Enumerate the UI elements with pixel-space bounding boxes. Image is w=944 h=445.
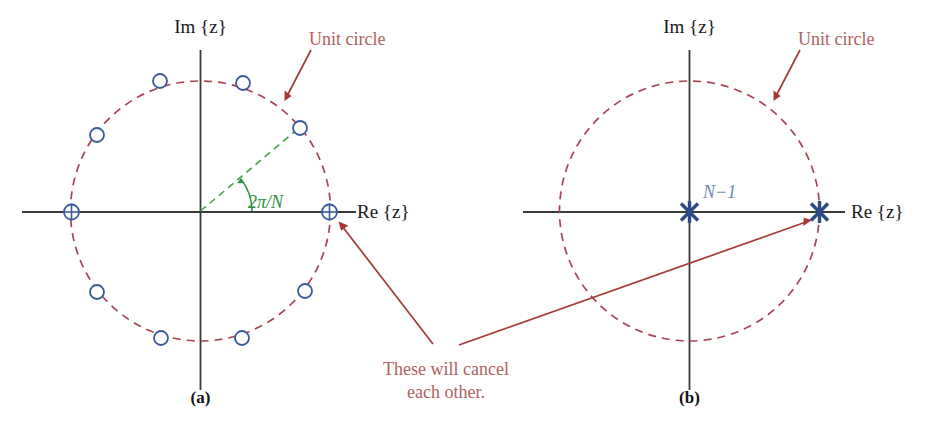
panel-b-unit-circle-label: Unit circle — [798, 29, 874, 49]
cancel-text-line-2: each other. — [407, 382, 485, 402]
panel-b-imag-axis-label: Im {z} — [663, 16, 716, 37]
zplane-figure-canvas: Re {z} Im {z} Unit circle 2π/N (a) — [0, 0, 944, 445]
cancel-arrow-to-panel-a-shaft — [342, 226, 433, 344]
panel-a-zero-marker — [293, 121, 307, 135]
panel-a-zero-marker — [298, 284, 312, 298]
cancellation-annotation: These will cancel each other. — [339, 218, 813, 402]
cancel-arrow-to-panel-a-head — [339, 222, 349, 231]
panel-a-real-axis-label: Re {z} — [357, 201, 410, 222]
panel-a-caption: (a) — [191, 388, 211, 407]
cancel-arrow-to-panel-b-shaft — [459, 222, 806, 345]
panel-a: Re {z} Im {z} Unit circle 2π/N (a) — [22, 16, 410, 407]
panel-a-unit-circle-label: Unit circle — [309, 29, 385, 49]
panel-a-zero-marker — [90, 128, 104, 142]
panel-a-imag-axis-label: Im {z} — [174, 16, 227, 37]
cancel-text-line-1: These will cancel — [383, 359, 509, 379]
panel-b: Re {z} Im {z} Unit circle N−1 (b) — [523, 16, 904, 407]
panel-a-zero-marker — [235, 331, 249, 345]
panel-a-zero-marker — [153, 74, 167, 88]
panel-a-angle-label: 2π/N — [248, 192, 284, 212]
panel-b-multiplicity-label: N−1 — [702, 182, 736, 202]
panel-b-unit-circle-arrow-shaft — [776, 50, 800, 96]
panel-a-zero-marker — [236, 76, 250, 90]
panel-b-real-axis-label: Re {z} — [851, 201, 904, 222]
panel-b-caption: (b) — [679, 388, 700, 407]
panel-a-zero-marker — [154, 331, 168, 345]
panel-a-zero-marker — [90, 285, 104, 299]
figure-root: Re {z} Im {z} Unit circle 2π/N (a) — [0, 0, 944, 445]
panel-a-unit-circle-arrow-shaft — [287, 50, 311, 96]
